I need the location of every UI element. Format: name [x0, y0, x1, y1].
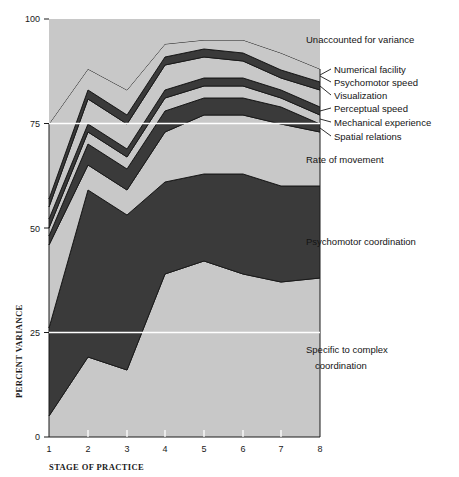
x-ticklabel-2: 2 — [85, 444, 90, 454]
x-ticklabel-7: 7 — [278, 444, 283, 454]
annotation-unaccounted-for-variance: Unaccounted for variance — [306, 34, 414, 45]
x-ticklabel-8: 8 — [317, 444, 322, 454]
x-ticklabel-4: 4 — [162, 444, 167, 454]
area-bands — [49, 19, 320, 437]
annotation-specific-to-complex-line2: coordination — [315, 360, 367, 371]
x-ticklabel-6: 6 — [240, 444, 245, 454]
annotation-specific-to-complex-line1: Specific to complex — [306, 344, 388, 355]
y-ticklabel-0: 0 — [35, 432, 40, 442]
annotation-rate-of-movement: Rate of movement — [306, 154, 384, 165]
stacked-area-chart: 100 75 50 25 0 PERCENT VARIANCE 1 2 3 4 … — [0, 0, 459, 477]
annotation-numerical-facility: Numerical facility — [334, 64, 406, 75]
y-ticklabel-25: 25 — [30, 328, 40, 338]
x-ticklabel-3: 3 — [124, 444, 129, 454]
annotation-psychomotor-speed: Psychomotor speed — [334, 77, 418, 88]
y-ticklabel-100: 100 — [25, 14, 40, 24]
x-axis-title: STAGE OF PRACTICE — [49, 462, 144, 472]
x-ticklabel-5: 5 — [201, 444, 206, 454]
annotation-visualization: Visualization — [334, 90, 387, 101]
y-ticklabel-75: 75 — [30, 119, 40, 129]
annotation-spatial-relations: Spatial relations — [334, 131, 402, 142]
annotation-psychomotor-coordination: Psychomotor coordination — [306, 236, 416, 247]
x-ticklabel-1: 1 — [46, 444, 51, 454]
annotation-mechanical-experience: Mechanical experience — [334, 117, 431, 128]
y-ticklabel-50: 50 — [30, 224, 40, 234]
annotation-perceptual-speed: Perceptual speed — [334, 103, 408, 114]
y-axis-title: PERCENT VARIANCE — [14, 304, 24, 398]
chart-figure: 100 75 50 25 0 PERCENT VARIANCE 1 2 3 4 … — [0, 0, 459, 477]
